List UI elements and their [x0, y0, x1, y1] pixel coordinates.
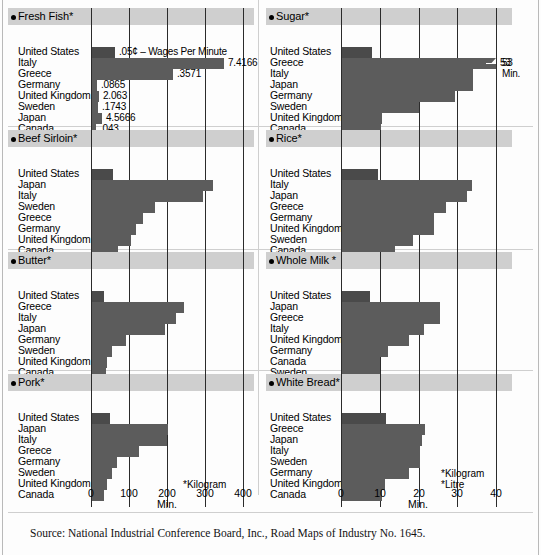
frame-rule-left — [2, 0, 3, 555]
bar-pork-4 — [91, 457, 117, 468]
axis-tick: 40 — [490, 487, 502, 499]
bullet-icon — [11, 381, 16, 386]
bar-whole-milk-6 — [341, 357, 380, 368]
axis-tick: 10 — [374, 487, 386, 499]
axis-break-icon — [486, 58, 496, 69]
bar-whole-milk-4 — [341, 335, 409, 346]
axis-tick: 300 — [196, 487, 214, 499]
zero-axis — [91, 45, 92, 137]
bar-beef-sirloin-2 — [91, 191, 203, 202]
bar-pork-2 — [91, 435, 167, 446]
bar-whole-milk-1 — [341, 302, 440, 313]
bar-sugar-2 — [341, 69, 473, 80]
bullet-icon — [11, 259, 16, 264]
panel-title-butter: Butter* — [18, 254, 51, 267]
bar-sugar-3 — [341, 80, 473, 91]
bar-fresh-fish-4 — [91, 91, 99, 102]
value-label: .3571 — [177, 68, 201, 79]
bar-butter-5 — [91, 346, 112, 357]
axis-tick: 30 — [451, 487, 463, 499]
gridline-400 — [243, 130, 244, 263]
bar-beef-sirloin-5 — [91, 224, 136, 235]
axis-tick: 400 — [234, 487, 252, 499]
bar-pork-5 — [91, 468, 112, 479]
bar-pork-1 — [91, 424, 168, 435]
bar-whole-milk-3 — [341, 324, 424, 335]
bar-rice-3 — [341, 202, 446, 213]
bullet-icon — [269, 381, 274, 386]
axis-unit-label: Min. — [157, 498, 177, 510]
bar-pork-3 — [91, 446, 139, 457]
panel-title-fresh-fish: Fresh Fish* — [18, 10, 73, 23]
bar-rice-5 — [341, 224, 434, 235]
bar-white-bread-0 — [341, 413, 386, 424]
bar-whole-milk-2 — [341, 313, 440, 324]
axis-tick: 0 — [338, 487, 344, 499]
country-label: Canada — [270, 489, 306, 500]
bullet-icon — [269, 137, 274, 142]
figure-page: Fresh Fish*United StatesItaly7.4166Greec… — [0, 0, 541, 555]
bar-rice-0 — [341, 169, 378, 180]
panel-header-rice — [266, 130, 512, 147]
bar-butter-0 — [91, 291, 104, 302]
panel-title-whole-milk: Whole Milk * — [276, 254, 336, 267]
zero-axis — [341, 289, 342, 381]
bar-butter-3 — [91, 324, 165, 335]
bar-fresh-fish-0 — [91, 47, 115, 58]
frame-rule-middle — [258, 0, 259, 495]
bar-white-bread-3 — [341, 446, 420, 457]
country-label: Canada — [18, 489, 54, 500]
bar-whole-milk-0 — [341, 291, 370, 302]
sugar-break-unit: Min. — [502, 68, 520, 79]
panel-title-pork: Pork* — [18, 376, 44, 389]
zero-axis — [91, 289, 92, 381]
bar-beef-sirloin-0 — [91, 169, 113, 180]
bar-fresh-fish-1 — [91, 58, 224, 69]
gridline-300 — [205, 130, 206, 263]
gridline-40 — [496, 8, 497, 141]
bar-pork-0 — [91, 413, 110, 424]
value-label: 4.5666 — [106, 112, 135, 123]
frame-rule-right — [538, 0, 539, 555]
bar-fresh-fish-5 — [91, 102, 98, 113]
gridline-300 — [205, 8, 206, 141]
bar-whole-milk-5 — [341, 346, 388, 357]
value-label: .1743 — [102, 101, 126, 112]
axis-unit-label: Min. — [408, 498, 428, 510]
zero-axis — [341, 167, 342, 259]
bullet-icon — [11, 137, 16, 142]
bullet-icon — [269, 15, 274, 20]
bullet-icon — [11, 15, 16, 20]
bar-beef-sirloin-4 — [91, 213, 143, 224]
bar-butter-1 — [91, 302, 184, 313]
source-caption: Source: National Industrial Conference B… — [30, 527, 425, 539]
value-label: .0865 — [101, 79, 125, 90]
value-label: 2.063 — [103, 90, 127, 101]
bar-beef-sirloin-6 — [91, 235, 131, 246]
gridline-30 — [457, 252, 458, 385]
bar-butter-4 — [91, 335, 126, 346]
bar-white-bread-2 — [341, 435, 422, 446]
bar-white-bread-1 — [341, 424, 425, 435]
bar-butter-2 — [91, 313, 176, 324]
wages-note: .05¢ – Wages Per Minute — [119, 46, 227, 57]
bullet-icon — [269, 259, 274, 264]
panel-header-pork — [8, 374, 254, 391]
gridline-400 — [243, 252, 244, 385]
axis-tick: 0 — [88, 487, 94, 499]
divider-footer — [8, 512, 533, 513]
gridline-40 — [496, 252, 497, 385]
bar-sugar-4 — [341, 91, 455, 102]
gridline-400 — [243, 8, 244, 141]
bar-rice-6 — [341, 235, 413, 246]
bar-rice-2 — [341, 191, 467, 202]
bar-sugar-6 — [341, 113, 382, 124]
gridline-40 — [496, 130, 497, 263]
bar-rice-4 — [341, 213, 434, 224]
value-label: 7.4166 — [228, 57, 257, 68]
gridline-300 — [205, 252, 206, 385]
zero-axis — [341, 45, 342, 137]
bar-white-bread-5 — [341, 468, 409, 479]
panel-title-rice: Rice* — [276, 132, 302, 145]
bar-rice-1 — [341, 180, 472, 191]
